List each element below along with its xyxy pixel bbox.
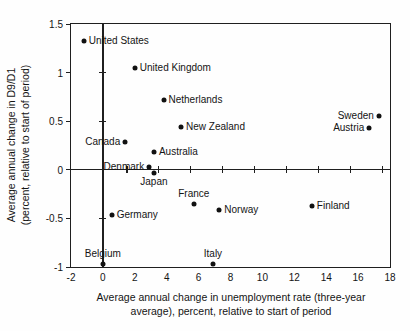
x-tick-label: 8 [228, 272, 234, 283]
data-point-label: Italy [204, 249, 222, 259]
data-point-label: Sweden [338, 111, 374, 121]
tick-mark [350, 166, 351, 173]
data-point [161, 97, 166, 102]
y-axis-tick [66, 121, 71, 122]
data-point [309, 203, 314, 208]
tick-mark [286, 166, 287, 173]
x-tick-label: 14 [321, 272, 332, 283]
tick-mark [382, 166, 383, 173]
x-tick-label: 10 [257, 272, 268, 283]
y-tick-label: 0 [57, 164, 63, 175]
data-point [217, 207, 222, 212]
tick-mark [318, 166, 319, 173]
tick-mark [99, 121, 106, 122]
data-point-label: Austria [333, 123, 364, 133]
y-axis-title-line1: Average annual change in D9/D1 [5, 15, 19, 275]
x-tick-label: 18 [384, 272, 395, 283]
x-tick-label: 12 [289, 272, 300, 283]
data-point-label: Belgium [85, 249, 121, 259]
y-axis-tick [66, 169, 71, 170]
data-point [100, 262, 105, 267]
data-point-label: Norway [224, 205, 258, 215]
tick-mark [99, 218, 106, 219]
x-tick-label: 6 [196, 272, 202, 283]
x-tick-label: -2 [67, 272, 76, 283]
data-point [191, 201, 196, 206]
data-point [147, 164, 152, 169]
x-tick-label: 4 [164, 272, 170, 283]
tick-mark [158, 166, 159, 173]
data-point-label: Germany [117, 210, 158, 220]
y-axis-tick [66, 267, 71, 268]
data-point [109, 212, 114, 217]
x-axis-title: Average annual change in unemployment ra… [61, 291, 401, 318]
y-tick-label: -1 [54, 262, 63, 273]
data-point-label: Netherlands [169, 95, 223, 105]
y-axis-tick [66, 218, 71, 219]
data-point [210, 262, 215, 267]
y-axis-tick [66, 24, 71, 25]
data-point-label: France [178, 189, 209, 199]
x-tick-label: 16 [353, 272, 364, 283]
y-tick-label: 1.5 [49, 19, 63, 30]
y-axis-title: Average annual change in D9/D1 (percent,… [5, 15, 35, 275]
data-point [81, 39, 86, 44]
y-tick-label: -0.5 [46, 213, 63, 224]
data-point-label: Canada [85, 137, 120, 147]
x-tick-label: 2 [132, 272, 138, 283]
data-point [367, 126, 372, 131]
data-point [376, 114, 381, 119]
data-point-label: Denmark [104, 162, 145, 172]
x-tick-label: 0 [100, 272, 106, 283]
data-point-label: New Zealand [186, 122, 245, 132]
x-axis-title-line2: average), percent, relative to start of … [61, 305, 401, 319]
y-tick-label: 1 [57, 67, 63, 78]
x-axis-title-line1: Average annual change in unemployment ra… [61, 291, 401, 305]
data-point-label: Australia [159, 147, 198, 157]
tick-mark [254, 166, 255, 173]
data-point-label: Finland [317, 201, 350, 211]
data-point [132, 65, 137, 70]
data-point [179, 125, 184, 130]
data-point-label: United States [89, 36, 149, 46]
y-tick-label: 0.5 [49, 116, 63, 127]
tick-mark [190, 166, 191, 173]
data-point [151, 170, 156, 175]
scatter-chart-figure: Average annual change in D9/D1 (percent,… [0, 0, 410, 331]
y-axis-title-line2: (percent, relative to start of period) [19, 15, 33, 275]
tick-mark [99, 72, 106, 73]
y-axis-tick [66, 72, 71, 73]
data-point [123, 139, 128, 144]
data-point-label: United Kingdom [140, 63, 211, 73]
data-point [151, 150, 156, 155]
tick-mark [222, 166, 223, 173]
data-point-label: Japan [140, 177, 167, 187]
